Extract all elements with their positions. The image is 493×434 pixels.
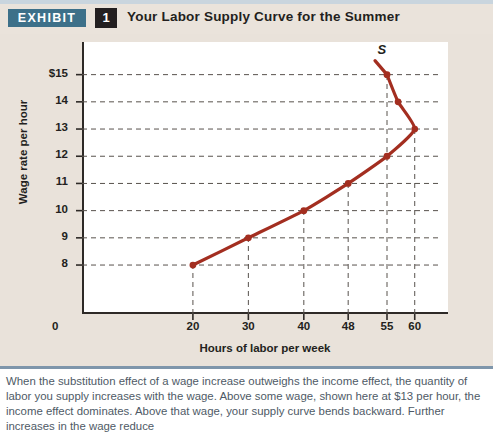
- exhibit-number-badge: 1: [95, 8, 117, 28]
- chart-area: Wage rate per hour Hours of labor per we…: [0, 34, 493, 364]
- plot-panel: [82, 42, 448, 314]
- x-tick-label-30: 30: [228, 320, 268, 332]
- x-tick-label-48: 48: [328, 320, 368, 332]
- x-tick-label-0: 0: [52, 320, 58, 332]
- exhibit-title: Your Labor Supply Curve for the Summer: [127, 9, 400, 24]
- y-tick-label-11: 11: [24, 175, 68, 187]
- curve-label-s: S: [377, 42, 386, 57]
- caption-band: When the substitution effect of a wage i…: [0, 369, 493, 419]
- x-tick-label-20: 20: [173, 320, 213, 332]
- y-tick-label-12: 12: [24, 148, 68, 160]
- y-tick-label-14: 14: [24, 94, 68, 106]
- x-axis-title: Hours of labor per week: [82, 342, 448, 354]
- y-tick-label-8: 8: [24, 257, 68, 269]
- x-tick-label-40: 40: [284, 320, 324, 332]
- y-tick-label-10: 10: [24, 203, 68, 215]
- caption-text: When the substitution effect of a wage i…: [6, 374, 488, 434]
- y-tick-label-15: $15: [24, 67, 68, 79]
- exhibit-header: EXHIBIT 1 Your Labor Supply Curve for th…: [0, 0, 493, 34]
- header-top-rule: [0, 0, 493, 4]
- y-tick-label-13: 13: [24, 121, 68, 133]
- exhibit-tag: EXHIBIT: [8, 9, 86, 27]
- y-tick-label-9: 9: [24, 230, 68, 242]
- x-tick-label-60: 60: [395, 320, 435, 332]
